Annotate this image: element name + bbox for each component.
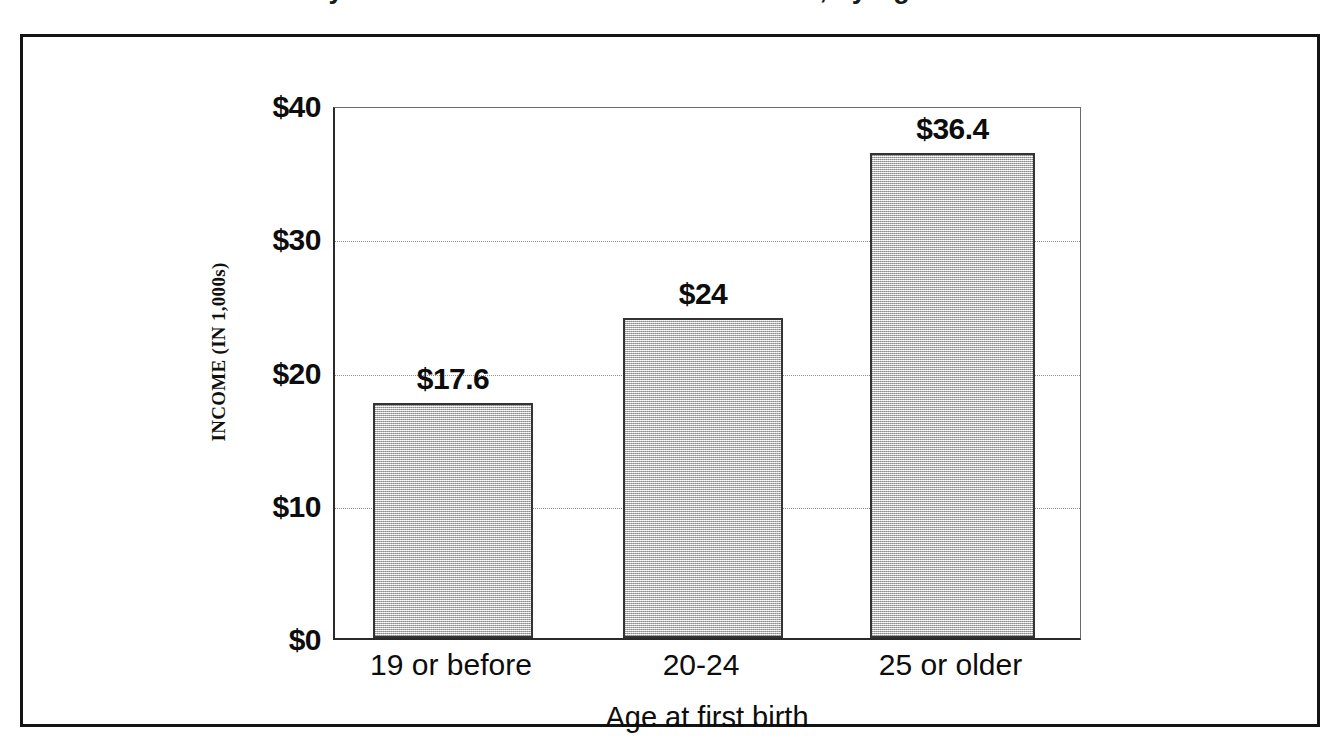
x-axis-tick-labels: 19 or before20-2425 or older — [333, 650, 1081, 690]
bar-value-label: $17.6 — [373, 364, 533, 394]
bar — [373, 403, 533, 638]
y-axis-tick-label: $40 — [201, 92, 321, 122]
figure-title-cropped: Median Family Income of Women Who Are Mo… — [0, 0, 1341, 16]
bar — [870, 153, 1035, 638]
figure-frame: INCOME (IN 1,000s) $0$10$20$30$40 $17.6$… — [20, 34, 1320, 727]
x-axis-title: Age at first birth — [333, 703, 1081, 732]
bar-value-label: $36.4 — [870, 114, 1035, 144]
bar-value-label: $24 — [623, 279, 783, 309]
y-axis-tick-label: $10 — [201, 492, 321, 522]
x-axis-tick-label: 25 or older — [801, 650, 1101, 680]
figure-title-text: Median Family Income of Women Who Are Mo… — [155, 0, 1096, 5]
y-axis-tick-label: $20 — [201, 359, 321, 389]
bar — [623, 318, 783, 638]
plot-area: $17.6$24$36.4 — [333, 107, 1081, 640]
y-axis-tick-label: $30 — [201, 225, 321, 255]
y-axis-tick-labels: $0$10$20$30$40 — [193, 107, 321, 640]
